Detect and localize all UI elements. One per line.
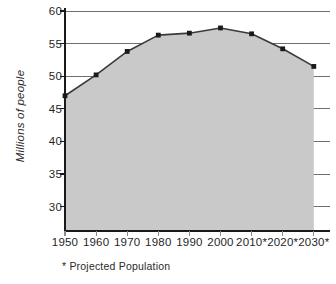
area-series: [65, 28, 314, 231]
x-tick-label: 1980: [145, 236, 171, 248]
x-tick-label: 2000: [207, 236, 233, 248]
footnote-projected-population: * Projected Population: [62, 260, 170, 272]
x-tick-label: 2010*: [236, 236, 267, 248]
population-area-chart: Millions of people 60 55 50 45 40 35 30 …: [0, 0, 336, 284]
x-tick-label: 1950: [52, 236, 78, 248]
x-tick-label: 2030*: [298, 236, 329, 248]
x-tick-label: 1960: [83, 236, 109, 248]
x-tick-label: 2020*: [267, 236, 298, 248]
x-tick-label: 1970: [114, 236, 140, 248]
x-tick-label: 1990: [176, 236, 202, 248]
